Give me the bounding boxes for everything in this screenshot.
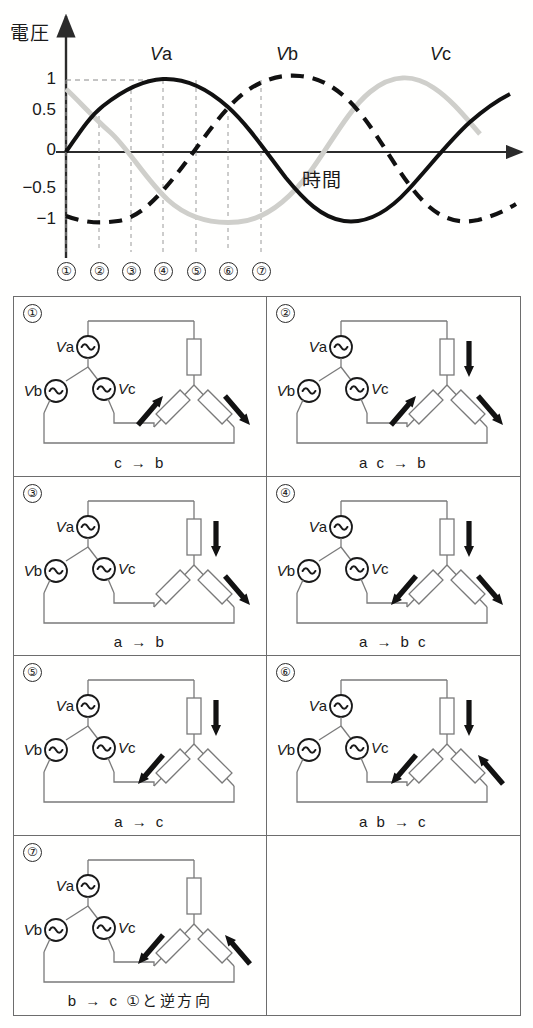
three-phase-circuit: Va Vb Vc <box>275 315 515 465</box>
figure-root: 電圧 1 0.5 0 −0.5 −1 Va Vb Vc 時間 ① ② ③ ④ ⑤… <box>0 0 533 1028</box>
ac-source-va <box>77 516 99 538</box>
load-resistor-b <box>156 390 190 424</box>
source-label-vc: Vc <box>118 380 136 397</box>
source-label-vb: Vb <box>277 382 295 399</box>
load-resistor-c <box>198 749 232 783</box>
ac-source-vb <box>45 560 67 582</box>
load-resistor-b <box>156 570 190 604</box>
load-resistor-b <box>409 390 443 424</box>
ac-source-va <box>330 336 352 358</box>
source-label-vb: Vb <box>24 741 42 758</box>
chart-marker-3: ③ <box>122 262 141 281</box>
ac-source-va <box>77 695 99 717</box>
x-axis-title: 時間 <box>302 165 341 192</box>
chart-marker-7: ⑦ <box>252 262 271 281</box>
ac-source-va <box>330 695 352 717</box>
circuit-diagram-2: Va Vb Vc <box>275 315 515 469</box>
curve-label-vc-sub: c <box>442 44 451 64</box>
source-label-va: Va <box>309 518 328 535</box>
curve-label-va-v: V <box>150 44 162 64</box>
source-label-vb: Vb <box>24 382 42 399</box>
ac-source-vc <box>346 737 368 759</box>
chart-marker-2: ② <box>90 262 109 281</box>
ac-source-vb <box>45 919 67 941</box>
source-label-vb: Vb <box>24 921 42 938</box>
circuit-panel-3: ③ Va Vb Vc a → b <box>14 477 267 657</box>
load-resistor-a <box>187 339 201 375</box>
three-phase-circuit: Va Vb Vc <box>22 854 262 1004</box>
panel-caption-3: a → b <box>14 633 266 650</box>
ac-source-vb <box>45 380 67 402</box>
current-arrow-a-down <box>211 700 221 736</box>
ac-source-va <box>77 875 99 897</box>
circuit-panel-grid: ① Va Vb Vc c → b ② Va Vb Vc a c → b ③ Va <box>13 296 521 1016</box>
curve-label-vc-v: V <box>430 44 442 64</box>
curve-label-vc: Vc <box>430 44 451 65</box>
circuit-panel-4: ④ Va Vb Vc a → b c <box>267 477 520 657</box>
ac-source-vb <box>298 380 320 402</box>
panel-caption-7: b → c ①と逆方向 <box>14 989 266 1010</box>
three-phase-circuit: Va Vb Vc <box>22 315 262 465</box>
y-tick-0: 0 <box>8 140 56 160</box>
source-label-va: Va <box>56 697 75 714</box>
chart-marker-5: ⑤ <box>187 262 206 281</box>
y-tick-1: 1 <box>8 69 56 89</box>
y-tick-0_5: 0.5 <box>8 100 56 120</box>
ac-source-vc <box>346 378 368 400</box>
circuit-diagram-1: Va Vb Vc <box>22 315 262 469</box>
ac-source-vc <box>93 737 115 759</box>
curve-label-va: Va <box>150 44 172 65</box>
circuit-diagram-3: Va Vb Vc <box>22 495 262 649</box>
circuit-panel-6: ⑥ Va Vb Vc a b → c <box>267 656 520 836</box>
source-label-vc: Vc <box>371 739 389 756</box>
circuit-panel-7: ⑦ Va Vb Vc b → c ①と逆方向 <box>14 836 267 1016</box>
waveform-chart: 電圧 1 0.5 0 −0.5 −1 Va Vb Vc 時間 ① ② ③ ④ ⑤… <box>0 0 533 290</box>
curve-label-vb-sub: b <box>288 44 298 64</box>
chart-marker-6: ⑥ <box>219 262 238 281</box>
curve-vc <box>66 78 480 223</box>
panel-caption-4: a → b c <box>267 633 520 650</box>
load-resistor-a <box>187 519 201 555</box>
load-resistor-a <box>187 878 201 914</box>
source-label-vb: Vb <box>277 562 295 579</box>
circuit-panel-2: ② Va Vb Vc a c → b <box>267 297 520 477</box>
panel-caption-5: a → c <box>14 813 266 830</box>
three-phase-circuit: Va Vb Vc <box>275 495 515 645</box>
source-label-vb: Vb <box>24 562 42 579</box>
load-resistor-a <box>187 698 201 734</box>
curve-label-vb-v: V <box>276 44 288 64</box>
source-label-vc: Vc <box>118 739 136 756</box>
curve-label-va-sub: a <box>162 44 172 64</box>
chart-marker-1: ① <box>57 262 76 281</box>
circuit-panel-5: ⑤ Va Vb Vc a → c <box>14 656 267 836</box>
ac-source-va <box>330 516 352 538</box>
source-label-vc: Vc <box>371 560 389 577</box>
circuit-panel-1: ① Va Vb Vc c → b <box>14 297 267 477</box>
ac-source-vb <box>298 560 320 582</box>
source-label-va: Va <box>56 877 75 894</box>
ac-source-va <box>77 336 99 358</box>
ac-source-vc <box>93 378 115 400</box>
current-arrow-a-down <box>464 341 474 377</box>
ac-source-vc <box>346 558 368 580</box>
three-phase-circuit: Va Vb Vc <box>275 674 515 824</box>
ac-source-vc <box>93 558 115 580</box>
ac-source-vb <box>45 739 67 761</box>
ac-source-vb <box>298 739 320 761</box>
circuit-diagram-4: Va Vb Vc <box>275 495 515 649</box>
three-phase-circuit: Va Vb Vc <box>22 495 262 645</box>
load-resistor-c <box>198 929 232 963</box>
load-resistor-c <box>451 749 485 783</box>
source-label-vc: Vc <box>118 560 136 577</box>
circuit-diagram-5: Va Vb Vc <box>22 674 262 828</box>
source-label-vc: Vc <box>371 380 389 397</box>
panel-caption-1: c → b <box>14 454 266 471</box>
source-label-va: Va <box>309 338 328 355</box>
source-label-va: Va <box>56 518 75 535</box>
panel-caption-6: a b → c <box>267 813 520 830</box>
three-phase-circuit: Va Vb Vc <box>22 674 262 824</box>
load-resistor-a <box>440 519 454 555</box>
circuit-panel-empty <box>267 836 520 1016</box>
source-label-va: Va <box>309 697 328 714</box>
chart-marker-4: ④ <box>154 262 173 281</box>
